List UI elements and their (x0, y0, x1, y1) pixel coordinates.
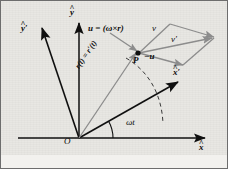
u-vector-label: u = (ω×r) (88, 24, 124, 33)
fixed-y-axis-label: ^y (70, 8, 74, 17)
circular-path-dashed (126, 58, 163, 124)
minus-u-vector-label: −u (144, 52, 154, 61)
point-p-label: P (133, 56, 139, 65)
rotating-y-axis (42, 28, 79, 138)
origin-label: O (64, 137, 71, 146)
rotating-x-axis (79, 82, 178, 138)
angle-arc (109, 121, 113, 138)
rotating-x-axis-label: ^x′ (173, 68, 180, 77)
v-vector-label: v (152, 24, 156, 33)
u-vector (110, 33, 137, 51)
rotating-y-axis-label: ^y′ (21, 24, 28, 33)
angle-label: ωt (126, 118, 135, 127)
v-prime-vector-label: v′ (171, 35, 177, 44)
figure-canvas: ^y ^x ^y′ ^x′ O ωt r(t) = r′(t) u = (ω×r… (0, 0, 228, 169)
bottom-margin-band (1, 155, 227, 168)
fixed-x-axis-label: ^x (199, 143, 204, 152)
